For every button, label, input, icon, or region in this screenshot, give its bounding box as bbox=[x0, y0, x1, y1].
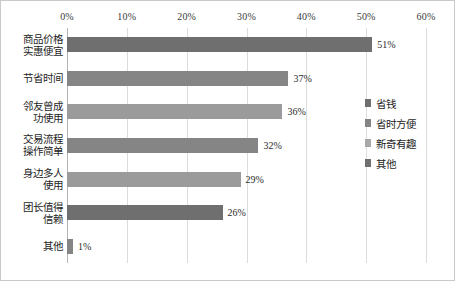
bar-2 bbox=[67, 104, 282, 119]
bar-row: 商品价格 实惠便宜51% bbox=[67, 28, 426, 62]
bar-6 bbox=[67, 239, 73, 254]
bar-row: 团长值得 信赖26% bbox=[67, 196, 426, 230]
x-axis-tick-6: 60% bbox=[417, 11, 436, 22]
legend-item-2[interactable]: 新奇有趣 bbox=[365, 133, 451, 153]
x-axis-tick-0: 0% bbox=[60, 11, 74, 22]
legend-swatch-icon-3 bbox=[365, 159, 371, 167]
bar-value-label-2: 36% bbox=[287, 106, 305, 117]
category-label-1: 节省时间 bbox=[0, 72, 63, 84]
legend: 省钱省时方便新奇有趣其他 bbox=[365, 93, 451, 173]
bar-value-label-1: 37% bbox=[293, 73, 311, 84]
legend-item-1[interactable]: 省时方便 bbox=[365, 113, 451, 133]
legend-item-3[interactable]: 其他 bbox=[365, 153, 451, 173]
legend-swatch-icon-2 bbox=[365, 139, 371, 147]
x-axis-tick-3: 30% bbox=[237, 11, 256, 22]
category-label-6: 其他 bbox=[0, 240, 63, 252]
legend-label-1: 省时方便 bbox=[376, 116, 416, 131]
category-label-3: 交易流程 操作简单 bbox=[0, 133, 63, 157]
legend-swatch-icon-0 bbox=[365, 99, 371, 107]
bar-5 bbox=[67, 205, 223, 220]
category-label-5: 团长值得 信赖 bbox=[0, 201, 63, 225]
category-label-2: 邻友曾成 功使用 bbox=[0, 100, 63, 124]
legend-label-0: 省钱 bbox=[376, 96, 396, 111]
legend-item-0[interactable]: 省钱 bbox=[365, 93, 451, 113]
x-axis-tick-2: 20% bbox=[177, 11, 196, 22]
bar-row: 节省时间37% bbox=[67, 62, 426, 96]
chart-figure: 0%10%20%30%40%50%60% 商品价格 实惠便宜51%节省时间37%… bbox=[0, 0, 455, 281]
legend-label-3: 其他 bbox=[376, 156, 396, 171]
bar-3 bbox=[67, 138, 258, 153]
x-axis-tick-5: 50% bbox=[357, 11, 376, 22]
bar-value-label-0: 51% bbox=[377, 39, 395, 50]
x-axis-tick-1: 10% bbox=[117, 11, 136, 22]
bar-value-label-6: 1% bbox=[78, 241, 91, 252]
x-axis-tick-4: 40% bbox=[297, 11, 316, 22]
legend-swatch-icon-1 bbox=[365, 119, 371, 127]
legend-label-2: 新奇有趣 bbox=[376, 136, 416, 151]
bar-0 bbox=[67, 37, 372, 52]
category-label-4: 身边多人 使用 bbox=[0, 167, 63, 191]
bar-value-label-3: 32% bbox=[263, 140, 281, 151]
bar-value-label-4: 29% bbox=[246, 174, 264, 185]
bar-1 bbox=[67, 71, 288, 86]
bar-4 bbox=[67, 172, 241, 187]
bar-row: 其他1% bbox=[67, 229, 426, 263]
bar-value-label-5: 26% bbox=[228, 207, 246, 218]
category-label-0: 商品价格 实惠便宜 bbox=[0, 33, 63, 57]
